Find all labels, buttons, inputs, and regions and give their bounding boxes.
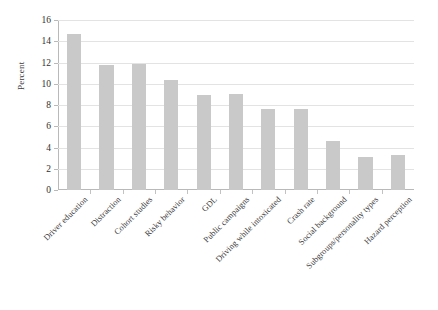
x-tick-label: Crash rate	[285, 195, 316, 226]
bar-chart-figure: Percent 0246810121416 Driver educationDi…	[0, 0, 438, 310]
bar	[99, 65, 113, 190]
bar	[229, 94, 243, 190]
x-tick-label: Risky behavior	[144, 195, 187, 238]
x-tick-mark	[252, 190, 253, 194]
x-tick-label: Driving while intoxicated	[214, 195, 283, 264]
y-tick-label: 4	[46, 143, 51, 153]
y-tick-label: 12	[42, 58, 52, 68]
y-tick-label: 8	[46, 100, 51, 110]
bar	[326, 141, 340, 190]
bar	[294, 109, 308, 190]
x-tick-mark	[123, 190, 124, 194]
x-tick-label: Cohort studies	[113, 195, 155, 237]
x-tick-label: GDL	[200, 195, 219, 214]
x-tick-mark	[349, 190, 350, 194]
bar	[67, 34, 81, 190]
x-tick-mark	[382, 190, 383, 194]
bar	[261, 109, 275, 190]
bar	[391, 155, 405, 190]
y-tick-mark	[54, 190, 58, 191]
x-tick-label: Hazard perception	[362, 195, 413, 246]
bar	[164, 80, 178, 191]
x-tick-mark	[155, 190, 156, 194]
y-tick-label: 10	[42, 79, 52, 89]
y-axis-title: Percent	[16, 76, 26, 90]
y-tick-label: 16	[42, 15, 52, 25]
x-tick-label: Public campaigns	[202, 195, 251, 244]
y-tick-label: 6	[46, 121, 51, 131]
x-tick-mark	[285, 190, 286, 194]
bar	[197, 95, 211, 190]
x-tick-mark	[220, 190, 221, 194]
bar-series	[58, 20, 414, 190]
x-tick-label: Social background	[297, 195, 349, 247]
y-tick-label: 0	[46, 185, 51, 195]
x-tick-label: Driver education	[42, 195, 89, 242]
y-tick-label: 2	[46, 164, 51, 174]
x-tick-label: Subgroups/personality types	[305, 195, 381, 271]
bar	[132, 64, 146, 190]
x-tick-label: Distraction	[89, 195, 122, 228]
y-tick-label: 14	[42, 36, 52, 46]
x-tick-mark	[187, 190, 188, 194]
x-tick-mark	[317, 190, 318, 194]
plot-area: 0246810121416	[58, 20, 414, 190]
x-tick-mark	[90, 190, 91, 194]
bar	[358, 157, 372, 190]
